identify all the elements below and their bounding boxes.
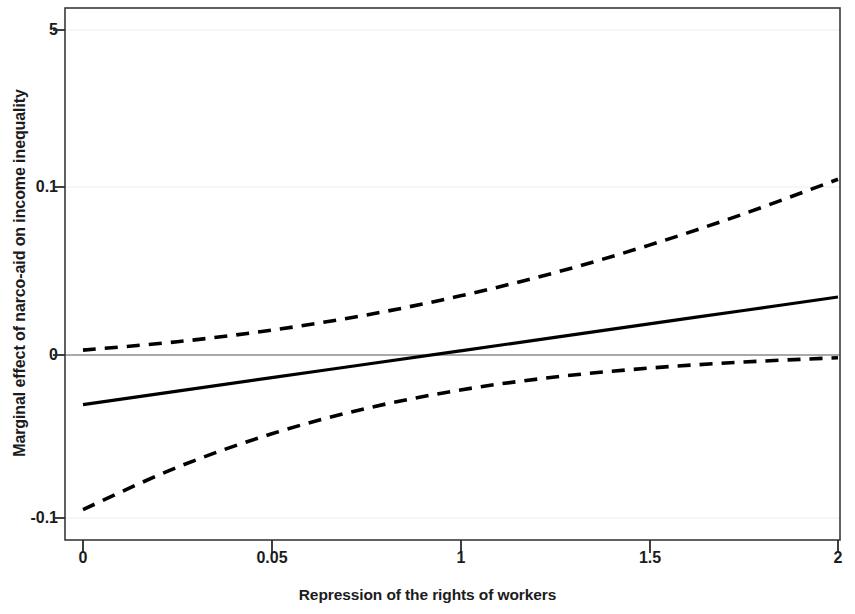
x-axis-title: Repression of the rights of workers <box>0 586 855 604</box>
x-tick-label-1: 0.05 <box>237 549 307 567</box>
plot-border <box>65 8 840 540</box>
upper-confidence-bound-line <box>83 179 838 350</box>
plot-canvas <box>0 0 855 614</box>
x-tick-label-0: 0 <box>48 549 118 567</box>
marginal-effects-chart: Marginal effect of narco-aid on income i… <box>0 0 855 614</box>
plot-frame <box>65 8 840 540</box>
y-axis-ticks <box>53 30 65 518</box>
x-tick-label-3: 1.5 <box>615 549 685 567</box>
x-tick-label-2: 1 <box>426 549 496 567</box>
lower-confidence-bound-line <box>83 358 838 510</box>
gridlines <box>65 30 840 518</box>
x-tick-label-4: 2 <box>803 549 855 567</box>
